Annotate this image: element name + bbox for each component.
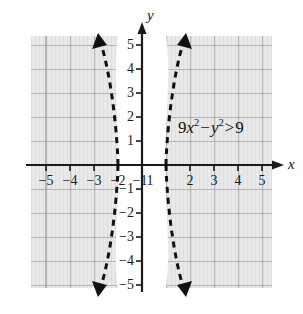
- y-axis-label: y: [147, 8, 154, 23]
- x-tick-label-3: 3: [211, 174, 218, 188]
- x-tick-label--1: −1: [133, 174, 148, 188]
- x-tick-label--3: −3: [87, 174, 102, 188]
- inequality-minus: −: [199, 118, 211, 137]
- y-tick-label--1: −1: [112, 182, 134, 196]
- inequality-exp-y: 2: [218, 117, 223, 128]
- inequality-relation: >: [224, 118, 236, 137]
- y-tick-label-2: 2: [118, 110, 134, 124]
- y-tick-label--3: −3: [112, 230, 134, 244]
- y-tick-label-3: 3: [118, 86, 134, 100]
- x-tick-label-1: 1: [147, 174, 154, 188]
- y-tick-label-1: 1: [118, 134, 134, 148]
- inequality-coefficient: 9: [178, 118, 187, 137]
- x-tick-label-4: 4: [235, 174, 242, 188]
- x-axis-arrowhead: [272, 161, 284, 170]
- y-axis-arrowhead: [138, 22, 147, 34]
- inequality-annotation: 9x2−y2>9: [178, 119, 244, 136]
- y-tick-label-5: 5: [118, 38, 134, 52]
- plot-texture: [31, 36, 272, 288]
- x-tick-label-5: 5: [259, 174, 266, 188]
- x-tick-label--5: −5: [39, 174, 54, 188]
- y-tick-label-4: 4: [118, 62, 134, 76]
- x-axis-label: x: [288, 157, 295, 172]
- inequality-rhs: 9: [235, 118, 244, 137]
- graph-screenshot: −5 −4 −3 −2 −1 1 2 3 4 5 5 4 3 2 1 −1 −2…: [0, 0, 303, 314]
- x-tick-label-2: 2: [187, 174, 194, 188]
- y-tick-label--2: −2: [112, 206, 134, 220]
- plot-area: [31, 36, 272, 288]
- y-tick-label--4: −4: [112, 254, 134, 268]
- x-tick-label--4: −4: [63, 174, 78, 188]
- inequality-var-x: x: [187, 118, 195, 137]
- y-tick-label--5: −5: [112, 278, 134, 292]
